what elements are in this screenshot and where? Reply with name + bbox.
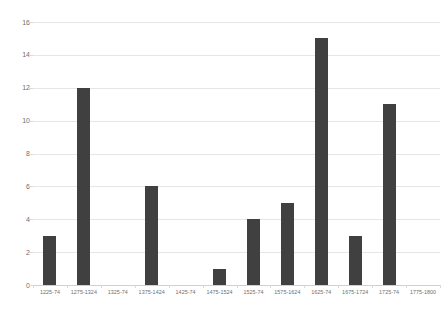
y-tick-label: 14 (4, 51, 30, 58)
bar (213, 269, 226, 285)
x-tick-label: 1775-1800 (406, 288, 440, 296)
y-tick-mark (29, 186, 33, 187)
bar (281, 203, 294, 285)
x-tick-mark (338, 285, 339, 288)
x-tick-label: 1325-74 (101, 288, 135, 296)
y-tick-mark (29, 252, 33, 253)
bar (349, 236, 362, 285)
x-tick-mark (135, 285, 136, 288)
bars-layer (33, 22, 440, 285)
y-tick-label: 16 (4, 19, 30, 26)
y-tick-label: 2 (4, 249, 30, 256)
x-tick-mark (270, 285, 271, 288)
x-tick-label: 1225-74 (33, 288, 67, 296)
bar (145, 186, 158, 285)
y-tick-label: 10 (4, 117, 30, 124)
y-tick-label: 4 (4, 216, 30, 223)
x-tick-label: 1475-1524 (203, 288, 237, 296)
y-tick-label: 0 (4, 282, 30, 289)
x-tick-label: 1625-74 (304, 288, 338, 296)
x-axis: 1225-741275-13241325-741375-14241425-741… (33, 288, 440, 302)
y-axis: 0246810121416 (0, 22, 30, 285)
x-tick-label: 1525-74 (237, 288, 271, 296)
bar (247, 219, 260, 285)
x-tick-mark (372, 285, 373, 288)
y-tick-mark (29, 219, 33, 220)
x-tick-mark (304, 285, 305, 288)
x-tick-mark (237, 285, 238, 288)
bar (315, 38, 328, 285)
x-tick-label: 1675-1724 (338, 288, 372, 296)
x-tick-label: 1575-1624 (270, 288, 304, 296)
x-tick-mark (67, 285, 68, 288)
y-tick-label: 8 (4, 150, 30, 157)
x-tick-label: 1725-74 (372, 288, 406, 296)
y-tick-label: 12 (4, 84, 30, 91)
x-tick-label: 1375-1424 (135, 288, 169, 296)
x-tick-label: 1425-74 (169, 288, 203, 296)
bar (43, 236, 56, 285)
y-tick-mark (29, 154, 33, 155)
x-tick-mark (203, 285, 204, 288)
x-tick-mark (33, 285, 34, 288)
y-tick-label: 6 (4, 183, 30, 190)
bar (77, 88, 90, 285)
y-tick-mark (29, 55, 33, 56)
x-tick-mark (440, 285, 441, 288)
x-tick-mark (101, 285, 102, 288)
y-tick-mark (29, 22, 33, 23)
x-tick-mark (406, 285, 407, 288)
x-tick-mark (169, 285, 170, 288)
x-tick-label: 1275-1324 (67, 288, 101, 296)
bar (383, 104, 396, 285)
y-tick-mark (29, 121, 33, 122)
y-tick-mark (29, 88, 33, 89)
bar-chart: 0246810121416 1225-741275-13241325-74137… (0, 0, 446, 314)
